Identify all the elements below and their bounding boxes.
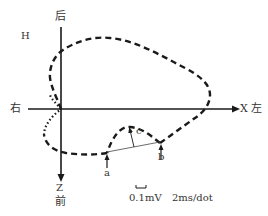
left-axis-label: 右 bbox=[10, 103, 21, 114]
bottom-axis-label: 前 bbox=[55, 196, 66, 207]
c-vector-arrow bbox=[130, 130, 134, 147]
diagram-canvas bbox=[0, 0, 268, 216]
marker-b-label: b bbox=[158, 152, 164, 162]
marker-a-label: a bbox=[104, 168, 110, 178]
return-loop-dashed bbox=[44, 135, 107, 155]
top-axis-label: 后 bbox=[55, 11, 66, 22]
time-scale-label: 2ms/dot bbox=[172, 193, 213, 203]
marker-c-label: c bbox=[136, 126, 142, 136]
st-bump-dashed bbox=[107, 127, 160, 153]
initial-dotted-segment bbox=[44, 109, 61, 135]
bottom-axis-letter: Z bbox=[56, 183, 63, 193]
voltage-scale-label: 0.1mV bbox=[129, 193, 162, 203]
right-axis-label: X 左 bbox=[240, 103, 262, 114]
scale-bar bbox=[136, 185, 146, 188]
plane-label: H bbox=[21, 31, 30, 41]
